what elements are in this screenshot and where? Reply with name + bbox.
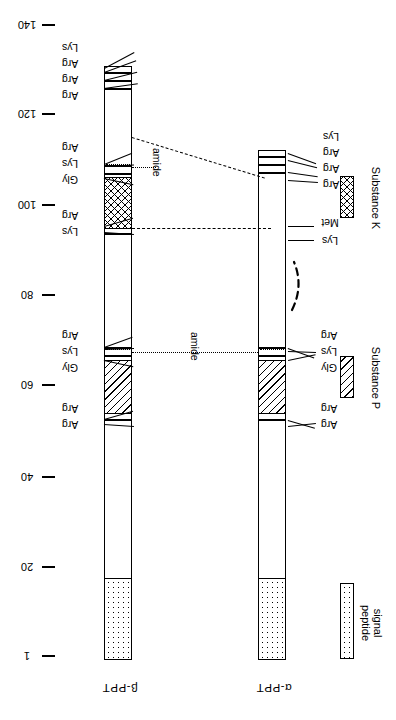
residue-label: Arg [58, 58, 82, 69]
residue-label: Gly [316, 362, 342, 373]
residue-label: Arg [58, 330, 82, 341]
residue-label: Arg [58, 210, 82, 221]
axis-tick-mark [42, 204, 55, 206]
residue-label: Arg [58, 90, 82, 101]
dashed-connector [132, 228, 271, 229]
residue-label: Arg [58, 419, 82, 430]
residue-label: Lys [316, 235, 344, 246]
residue-label: Arg [58, 403, 82, 414]
beta-ppt-label: β-PPT [100, 682, 140, 694]
residue-label: Arg [58, 74, 82, 85]
substance-p-region [259, 360, 285, 414]
residue-label: Arg [316, 403, 342, 414]
axis-tick-mark [42, 24, 55, 26]
axis-tick-label: 140 [14, 18, 40, 32]
cleavage-band [259, 419, 285, 421]
leader-line [288, 172, 318, 177]
axis-tick-label: 20 [14, 560, 40, 574]
residue-label: Lys [58, 158, 82, 169]
cleavage-band [259, 355, 285, 357]
cleavage-band [259, 172, 285, 174]
axis-tick-label: 100 [14, 198, 40, 212]
leader-line [288, 240, 314, 241]
axis-tick-label: 40 [14, 470, 40, 484]
cleavage-band [259, 156, 285, 158]
residue-label: Lys [58, 42, 82, 53]
figure-canvas: 140 120 100 80 60 40 20 1 [0, 0, 396, 720]
alpha-ppt-bar [258, 150, 286, 660]
legend-label-substance-k: Substance K [370, 160, 382, 236]
sequence-gap-marker [288, 260, 314, 312]
substance-p-region [105, 360, 131, 414]
cleavage-band [105, 355, 131, 357]
signal-peptide-region [105, 578, 131, 659]
residue-label: Lys [318, 131, 344, 142]
legend-label-signal-peptide: signalpeptide [360, 588, 384, 658]
legend-swatch-substance-p [340, 356, 354, 398]
residue-label: Lys [316, 346, 342, 357]
amide-label-upper: amide [151, 148, 163, 177]
alpha-ppt-label: α-PPT [254, 682, 294, 694]
residue-label: Arg [318, 147, 344, 158]
axis-tick-mark [42, 655, 55, 657]
axis-tick-mark [42, 476, 55, 478]
residue-label: Arg [316, 419, 342, 430]
signal-peptide-region [259, 578, 285, 659]
legend-label-substance-p: Substance P [370, 340, 382, 416]
residue-label: Arg [318, 163, 344, 174]
axis-tick-label: 1 [14, 649, 40, 663]
axis-tick-label: 60 [14, 378, 40, 392]
legend-swatch-signal-peptide [340, 583, 354, 659]
dotted-amide-site [260, 349, 284, 350]
leader-line [288, 226, 314, 227]
dotted-amide-site [106, 164, 130, 165]
cleavage-band [105, 80, 131, 82]
axis-tick-mark [42, 113, 55, 115]
residue-label: Gly [58, 174, 82, 185]
axis-tick-mark [42, 384, 55, 386]
cleavage-band [259, 164, 285, 166]
legend-label-line1: signal [372, 609, 384, 638]
residue-label: Arg [316, 330, 342, 341]
axis-tick-mark [42, 566, 55, 568]
axis-tick-label: 120 [14, 107, 40, 121]
axis-tick-label: 80 [14, 288, 40, 302]
residue-label: Lys [58, 226, 82, 237]
residue-label: Met [316, 217, 344, 228]
dotted-amide-site [106, 349, 130, 350]
legend-swatch-substance-k [340, 176, 354, 218]
cleavage-band [105, 419, 131, 421]
cleavage-band [105, 173, 131, 175]
legend-label-line2: peptide [360, 605, 372, 641]
leader-line [288, 180, 318, 183]
residue-label: Gly [58, 362, 82, 373]
axis-tick-mark [42, 294, 55, 296]
residue-label: Lys [58, 346, 82, 357]
residue-label: Arg [58, 142, 82, 153]
amide-label-lower: amide [189, 332, 201, 361]
